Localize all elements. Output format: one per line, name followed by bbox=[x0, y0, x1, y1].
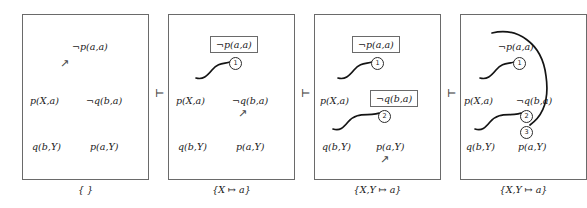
substitution-label: {X,Y ↦ a} bbox=[314, 184, 441, 195]
resolution-pointer-arrow-icon: ↗ bbox=[238, 108, 247, 119]
literal-p-X-a: p(X,a) bbox=[464, 96, 493, 106]
derivation-panel-4: ¬p(a,a) 1 p(X,a) ¬q(b,a) 2 3 q(b,Y) p(a,… bbox=[460, 0, 587, 208]
turnstile-separator-2: ⊢ bbox=[301, 88, 310, 99]
literal-p-a-Y: p(a,Y) bbox=[90, 142, 118, 152]
step-circle-1: 1 bbox=[229, 57, 242, 70]
literal-p-X-a: p(X,a) bbox=[176, 96, 205, 106]
boxed-literal-neg-p-a-a: ¬p(a,a) bbox=[352, 36, 400, 53]
substitution-label: {X,Y ↦ a} bbox=[460, 184, 587, 195]
clause-matrix: ¬p(a,a) 1 p(X,a) ¬q(b,a) ↗ q(b,Y) p(a,Y) bbox=[168, 14, 295, 180]
step-circle-3: 3 bbox=[520, 126, 533, 139]
literal-neg-q-b-a: ¬q(b,a) bbox=[516, 96, 552, 106]
literal-p-a-Y: p(a,Y) bbox=[236, 142, 264, 152]
literal-q-b-Y: q(b,Y) bbox=[466, 142, 495, 152]
literal-q-b-Y: q(b,Y) bbox=[322, 142, 351, 152]
boxed-literal-neg-q-b-a: ¬q(b,a) bbox=[370, 90, 418, 107]
derivation-panel-2: ¬p(a,a) 1 p(X,a) ¬q(b,a) ↗ q(b,Y) p(a,Y)… bbox=[168, 0, 295, 208]
substitution-label: {X ↦ a} bbox=[168, 184, 295, 195]
step-circle-1: 1 bbox=[371, 57, 384, 70]
clause-matrix: ¬p(a,a) ↗ p(X,a) ¬q(b,a) q(b,Y) p(a,Y) bbox=[22, 14, 149, 180]
literal-neg-p-a-a: ¬p(a,a) bbox=[72, 42, 108, 52]
turnstile-separator-3: ⊢ bbox=[447, 88, 456, 99]
boxed-literal-neg-p-a-a: ¬p(a,a) bbox=[210, 36, 258, 53]
resolution-pointer-arrow-icon: ↗ bbox=[60, 58, 69, 69]
derivation-panel-1: ¬p(a,a) ↗ p(X,a) ¬q(b,a) q(b,Y) p(a,Y) {… bbox=[22, 0, 149, 208]
literal-p-a-Y: p(a,Y) bbox=[376, 142, 404, 152]
derivation-panel-3: ¬p(a,a) 1 p(X,a) ¬q(b,a) 2 q(b,Y) p(a,Y)… bbox=[314, 0, 441, 208]
turnstile-separator-1: ⊢ bbox=[155, 88, 164, 99]
literal-p-X-a: p(X,a) bbox=[30, 96, 59, 106]
literal-q-b-Y: q(b,Y) bbox=[32, 142, 61, 152]
resolution-pointer-arrow-icon: ↗ bbox=[380, 154, 389, 165]
step-circle-1: 1 bbox=[513, 57, 526, 70]
literal-q-b-Y: q(b,Y) bbox=[178, 142, 207, 152]
clause-matrix: ¬p(a,a) 1 p(X,a) ¬q(b,a) 2 q(b,Y) p(a,Y)… bbox=[314, 14, 441, 180]
substitution-label: { } bbox=[22, 184, 149, 195]
step-circle-2: 2 bbox=[378, 110, 391, 123]
literal-neg-p-a-a: ¬p(a,a) bbox=[498, 42, 534, 52]
literal-p-X-a: p(X,a) bbox=[320, 96, 349, 106]
clause-matrix: ¬p(a,a) 1 p(X,a) ¬q(b,a) 2 3 q(b,Y) p(a,… bbox=[460, 14, 587, 180]
step-circle-2: 2 bbox=[520, 110, 533, 123]
literal-p-a-Y: p(a,Y) bbox=[518, 142, 546, 152]
literal-neg-q-b-a: ¬q(b,a) bbox=[232, 96, 268, 106]
literal-neg-q-b-a: ¬q(b,a) bbox=[86, 96, 122, 106]
